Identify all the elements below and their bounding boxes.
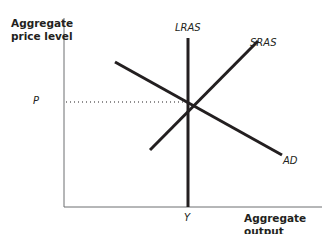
- ad-label: AD: [283, 155, 298, 166]
- ad-curve: [115, 62, 282, 155]
- y-axis-title: Aggregate price level: [11, 17, 73, 43]
- y-axis-title-line1: Aggregate: [11, 17, 73, 30]
- sras-label: SRAS: [250, 37, 276, 48]
- output-y-label: Y: [184, 212, 190, 223]
- price-level-p-label: P: [33, 95, 39, 106]
- y-axis-title-line2: price level: [11, 30, 73, 43]
- x-axis-title: Aggregate output: [244, 212, 332, 234]
- lras-label: LRAS: [175, 22, 201, 33]
